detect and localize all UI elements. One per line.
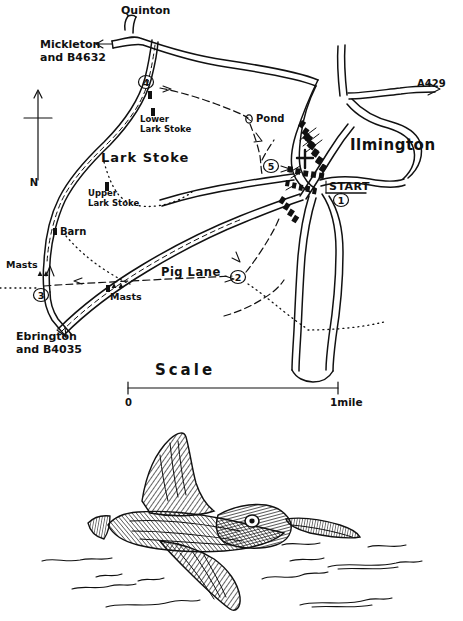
label-upper-lark-stoke-2: Lark Stoke bbox=[88, 198, 139, 208]
route-map: N 1 2 3 4 5 Quinton Mickleton and B4632 … bbox=[0, 0, 463, 410]
north-letter: N bbox=[30, 177, 38, 188]
label-ebrington: Ebrington bbox=[16, 330, 77, 343]
label-pond: Pond bbox=[256, 113, 284, 124]
label-pig-lane: Pig Lane bbox=[161, 265, 221, 279]
waypoint-5[interactable]: 5 bbox=[264, 160, 279, 173]
waypoint-3[interactable]: 3 bbox=[34, 289, 49, 302]
pond-icon bbox=[246, 115, 252, 123]
label-upper-lark-stoke-1: Upper bbox=[88, 188, 118, 198]
bird-head bbox=[216, 504, 360, 548]
waypoint-1-label: 1 bbox=[338, 195, 345, 206]
label-masts-left: Masts bbox=[6, 259, 38, 270]
label-a429: A429 bbox=[417, 78, 446, 89]
label-lower-lark-stoke-2: Lark Stoke bbox=[140, 124, 191, 134]
building-marker bbox=[53, 228, 57, 235]
start-label: START bbox=[329, 180, 370, 193]
figure-sheet: N 1 2 3 4 5 Quinton Mickleton and B4632 … bbox=[0, 0, 463, 621]
bird-bill bbox=[286, 518, 360, 538]
building-marker bbox=[148, 91, 152, 99]
label-masts-mid: Masts bbox=[110, 291, 142, 302]
scale-bar: Scale 0 1mile bbox=[0, 357, 463, 412]
waypoint-4[interactable]: 4 bbox=[139, 76, 154, 89]
label-lower-lark-stoke-1: Lower bbox=[140, 114, 170, 124]
waypoint-3-label: 3 bbox=[38, 290, 45, 301]
label-ebrington-road: and B4035 bbox=[16, 343, 82, 356]
scale-start-label: 0 bbox=[125, 397, 132, 408]
start-marker: START bbox=[326, 180, 370, 194]
compass-north-arrow bbox=[24, 90, 52, 180]
label-ilmington: Ilmington bbox=[350, 136, 436, 154]
waypoint-2-label: 2 bbox=[235, 272, 242, 283]
label-barn: Barn bbox=[60, 226, 86, 237]
label-mickleton-road: and B4632 bbox=[40, 51, 106, 64]
scale-title: Scale bbox=[155, 361, 215, 379]
bird-upper-wing bbox=[142, 433, 214, 516]
waypoint-4-label: 4 bbox=[143, 77, 150, 88]
label-lark-stoke: Lark Stoke bbox=[101, 150, 189, 165]
bird-in-flight-drawing bbox=[0, 421, 463, 621]
scale-end-label: 1mile bbox=[330, 396, 363, 408]
waypoint-1[interactable]: 1 bbox=[334, 194, 349, 207]
waypoint-5-label: 5 bbox=[268, 161, 275, 172]
waypoint-2[interactable]: 2 bbox=[231, 271, 246, 284]
label-quinton: Quinton bbox=[121, 4, 170, 17]
label-mickleton: Mickleton bbox=[40, 38, 100, 51]
